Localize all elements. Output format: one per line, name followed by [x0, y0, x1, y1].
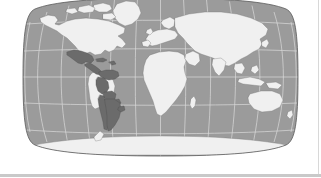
world-map-image	[19, 0, 302, 158]
bottom-edge-rule	[0, 174, 321, 177]
right-edge-rule	[318, 0, 319, 174]
figure-root	[0, 0, 321, 178]
world-map-container	[19, 0, 302, 158]
